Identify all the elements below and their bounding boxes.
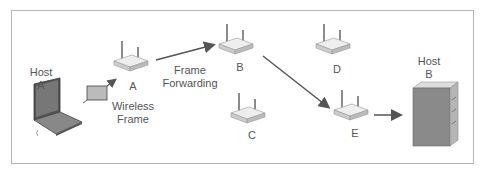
host-a-label: Host A	[26, 66, 56, 92]
frame-forwarding-line1: Frame	[160, 64, 220, 77]
host-a-label-line2: A	[26, 79, 56, 92]
network-diagram	[0, 0, 487, 172]
router-d-label: D	[330, 63, 344, 76]
wireless-frame-label: Wireless Frame	[108, 100, 158, 126]
router-e-label: E	[348, 127, 362, 140]
forward-arrow-b-e	[263, 56, 328, 107]
host-a-label-line1: Host	[26, 66, 56, 79]
frame-forwarding-label: Frame Forwarding	[160, 64, 220, 90]
host-b-label-line1: Host	[414, 55, 444, 68]
wireless-frame-line1: Wireless	[108, 100, 158, 113]
forward-arrow-a-b	[156, 45, 213, 60]
host-b-label: Host B	[414, 55, 444, 81]
wireless-frame-line2: Frame	[108, 113, 158, 126]
router-b-icon	[219, 24, 253, 54]
router-c-label: C	[245, 129, 259, 142]
router-a-label: A	[126, 80, 140, 93]
frame-forwarding-line2: Forwarding	[160, 77, 220, 90]
router-e-icon	[334, 90, 368, 120]
router-c-icon	[231, 93, 265, 123]
router-a-icon	[114, 41, 148, 71]
server-icon	[413, 82, 458, 146]
router-d-icon	[316, 24, 350, 54]
router-b-label: B	[233, 61, 247, 74]
host-b-label-line2: B	[414, 68, 444, 81]
